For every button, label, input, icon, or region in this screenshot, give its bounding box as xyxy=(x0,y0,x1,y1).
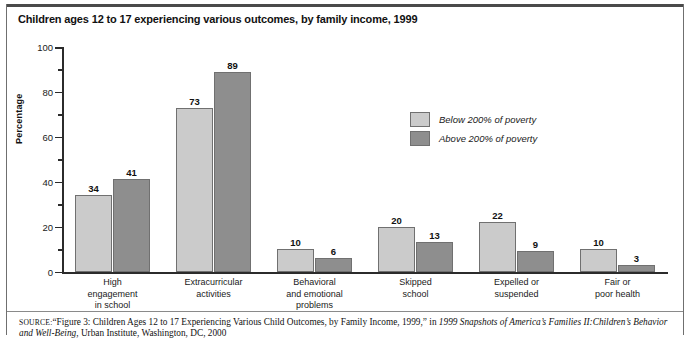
source-line1-a: “Figure 3: Children Ages 12 to 17 Experi… xyxy=(52,317,438,327)
y-tick-minor xyxy=(58,114,62,116)
y-tick-label: 40 xyxy=(42,176,53,187)
bar: 10 xyxy=(580,249,617,271)
legend-label-below-poverty: Below 200% of poverty xyxy=(439,114,536,125)
y-tick-label: 60 xyxy=(42,131,53,142)
legend-item: Below 200% of poverty xyxy=(410,112,537,127)
bar-value-label: 20 xyxy=(391,215,402,226)
y-tick-minor xyxy=(58,69,62,71)
y-tick-minor xyxy=(58,159,62,161)
x-axis-line xyxy=(62,272,668,274)
source-label: SOURCE: xyxy=(19,318,52,327)
frame-left-border xyxy=(6,4,7,335)
legend-item: Above 200% of poverty xyxy=(410,131,537,146)
bar-value-label: 22 xyxy=(492,210,503,221)
category-label: Extracurricular activities xyxy=(163,277,264,300)
bar: 73 xyxy=(176,108,213,272)
y-tick-label: 100 xyxy=(37,42,53,53)
legend-label-above-poverty: Above 200% of poverty xyxy=(439,133,537,144)
bar: 20 xyxy=(378,227,415,272)
bar-value-label: 73 xyxy=(189,96,200,107)
legend-swatch-below-poverty xyxy=(410,112,430,127)
frame-top-border xyxy=(6,4,684,7)
source-line2-b: , Urban Institute, Washington, DC, 2000 xyxy=(76,328,226,338)
y-tick-label: 80 xyxy=(42,86,53,97)
category-label: Skipped school xyxy=(365,277,466,300)
y-tick-mark xyxy=(55,227,62,229)
y-tick-mark xyxy=(55,272,62,274)
bar-value-label: 9 xyxy=(533,239,538,250)
chart-legend: Below 200% of poverty Above 200% of pove… xyxy=(410,112,537,150)
source-line1-b: 1999 Snapshots of America’s Families II: xyxy=(439,317,593,327)
bar-value-label: 10 xyxy=(593,237,604,248)
category-label: Behavioral and emotional problems xyxy=(264,277,365,312)
bar: 34 xyxy=(75,195,112,271)
y-axis-label: Percentage xyxy=(14,93,24,144)
bar: 3 xyxy=(618,265,655,272)
legend-swatch-above-poverty xyxy=(410,131,430,146)
source-divider xyxy=(7,311,683,312)
bar: 10 xyxy=(277,249,314,271)
bar-value-label: 41 xyxy=(126,167,137,178)
bar: 22 xyxy=(479,222,516,271)
y-axis-line xyxy=(62,47,64,273)
chart-title: Children ages 12 to 17 experiencing vari… xyxy=(18,13,417,25)
category-label: Fair or poor health xyxy=(567,277,668,300)
bar: 6 xyxy=(315,258,352,271)
bar-value-label: 10 xyxy=(290,237,301,248)
bar: 41 xyxy=(113,179,150,271)
bar: 89 xyxy=(214,72,251,272)
plot-area: 020406080100 344173891062013229103 High … xyxy=(62,47,668,273)
y-tick-label: 0 xyxy=(48,266,53,277)
y-tick-mark xyxy=(55,92,62,94)
y-tick-label: 20 xyxy=(42,221,53,232)
y-tick-mark xyxy=(55,137,62,139)
frame-right-border xyxy=(683,4,684,335)
y-tick-mark xyxy=(55,182,62,184)
category-label: High engagement in school xyxy=(62,277,163,312)
bar-value-label: 89 xyxy=(227,60,238,71)
bar: 9 xyxy=(517,251,554,271)
y-tick-mark xyxy=(55,47,62,49)
bar-value-label: 34 xyxy=(88,183,99,194)
bar: 13 xyxy=(416,242,453,271)
bar-value-label: 6 xyxy=(331,246,336,257)
y-tick-minor xyxy=(58,249,62,251)
bar-value-label: 13 xyxy=(429,230,440,241)
y-tick-minor xyxy=(58,204,62,206)
category-label: Expelled or suspended xyxy=(466,277,567,300)
bar-value-label: 3 xyxy=(634,253,639,264)
source-note: SOURCE:“Figure 3: Children Ages 12 to 17… xyxy=(19,317,679,339)
